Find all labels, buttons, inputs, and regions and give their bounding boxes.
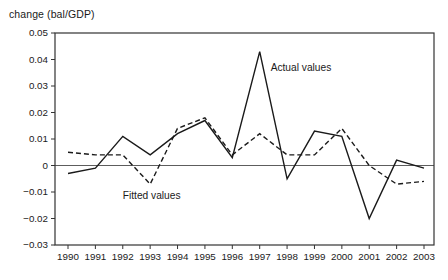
actual-values-label: Actual values <box>271 62 332 73</box>
x-axis-tick-label: 1998 <box>276 251 298 262</box>
fitted-values-line <box>68 118 424 184</box>
x-axis-tick-label: 1992 <box>112 251 134 262</box>
line-chart: 0.050.040.030.020.010−0.01−0.02−0.031990… <box>0 0 448 280</box>
plot-frame <box>55 33 434 245</box>
x-axis-tick-label: 2002 <box>386 251 408 262</box>
y-axis-tick-label: 0.01 <box>29 133 48 144</box>
x-axis-tick-label: 2003 <box>413 251 435 262</box>
y-axis-tick-label: 0.03 <box>29 80 49 91</box>
y-axis-tick-label: −0.02 <box>23 213 48 224</box>
x-axis-tick-label: 1999 <box>304 251 326 262</box>
x-axis-tick-label: 1993 <box>139 251 161 262</box>
x-axis-tick-label: 1990 <box>57 251 79 262</box>
y-axis-tick-label: 0.05 <box>29 27 49 38</box>
chart-container: change (bal/GDP) 0.050.040.030.020.010−0… <box>0 0 448 280</box>
x-axis-tick-label: 2000 <box>331 251 353 262</box>
x-axis-tick-label: 2001 <box>358 251 380 262</box>
y-axis-tick-label: −0.01 <box>23 186 48 197</box>
y-axis-tick-label: 0.04 <box>29 54 49 65</box>
x-axis-tick-label: 1997 <box>249 251 271 262</box>
x-axis-tick-label: 1995 <box>194 251 216 262</box>
x-axis-tick-label: 1996 <box>221 251 243 262</box>
x-axis-tick-label: 1994 <box>167 251 189 262</box>
y-axis-tick-label: 0.02 <box>29 107 48 118</box>
actual-values-line <box>68 52 424 219</box>
y-axis-tick-label: −0.03 <box>23 239 48 250</box>
x-axis-tick-label: 1991 <box>84 251 106 262</box>
fitted-values-label: Fitted values <box>123 190 181 201</box>
y-axis-tick-label: 0 <box>43 160 49 171</box>
